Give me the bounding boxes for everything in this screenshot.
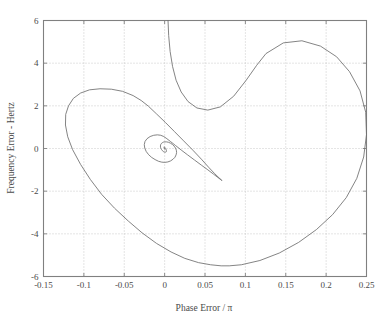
x-tick-label: 0 — [162, 280, 167, 290]
x-tick-label: -0.05 — [115, 280, 134, 290]
y-tick-label: -4 — [31, 229, 39, 239]
grid-lines — [44, 21, 367, 277]
x-axis-label: Phase Error / π — [176, 303, 233, 313]
figure-top-margin — [0, 0, 392, 6]
y-tick-label: 2 — [34, 101, 39, 111]
x-tick-label: -0.1 — [77, 280, 91, 290]
y-tick-label: 6 — [34, 16, 39, 26]
y-tick-labels: -6-4-20246 — [31, 16, 39, 282]
y-tick-label: -6 — [31, 272, 39, 282]
y-tick-label: 0 — [34, 144, 39, 154]
y-axis-label: Frequency Error - Hertz — [6, 102, 16, 194]
x-tick-label: 0.2 — [321, 280, 332, 290]
x-tick-label: 0.15 — [278, 280, 294, 290]
x-tick-label: 0.25 — [359, 280, 375, 290]
figure-container: -0.15-0.1-0.0500.050.10.150.20.25 -6-4-2… — [0, 0, 392, 325]
x-tick-label: 0.1 — [240, 280, 251, 290]
trajectory-path — [65, 21, 366, 266]
x-tick-label: 0.05 — [197, 280, 213, 290]
phase-plane-chart: -0.15-0.1-0.0500.050.10.150.20.25 -6-4-2… — [0, 0, 392, 325]
y-tick-label: 4 — [34, 58, 39, 68]
y-tick-label: -2 — [31, 186, 39, 196]
x-tick-labels: -0.15-0.1-0.0500.050.10.150.20.25 — [34, 280, 375, 290]
data-curve — [65, 21, 366, 266]
